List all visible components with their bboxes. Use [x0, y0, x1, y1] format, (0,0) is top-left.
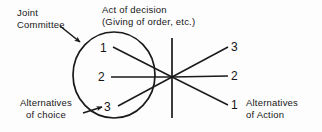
output-node-label-1: 1 — [231, 99, 238, 111]
outgoing-line-2 — [172, 76, 228, 77]
joint-committee-circle — [73, 32, 155, 118]
output-node-label-3: 3 — [231, 41, 238, 53]
input-node-label-3: 3 — [104, 101, 111, 113]
label-alternatives-of-action: Alternatives of Action — [246, 97, 298, 120]
input-node-label-2: 2 — [98, 71, 105, 83]
output-node-label-2: 2 — [231, 70, 238, 82]
label-act-of-decision: Act of decision (Giving of order, etc.) — [102, 4, 195, 27]
label-alternatives-of-choice: Alternatives of choice — [10, 97, 82, 120]
incoming-line-1 — [113, 47, 172, 77]
outgoing-line-3 — [172, 47, 228, 77]
incoming-line-3 — [118, 77, 172, 106]
input-node-label-1: 1 — [100, 42, 107, 54]
outgoing-line-1 — [172, 77, 228, 105]
label-joint-committee: Joint Committee — [17, 7, 65, 30]
decision-diagram-figure: Joint Committee Act of decision (Giving … — [0, 0, 322, 132]
